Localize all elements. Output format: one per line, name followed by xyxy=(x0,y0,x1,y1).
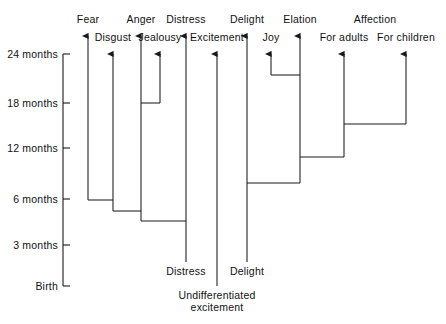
root-label-line-1: Undifferentiated xyxy=(178,290,255,302)
emotion-label-fear: Fear xyxy=(77,13,99,25)
emotion-differentiation-chart: 24 months 18 months 12 months 6 months 3… xyxy=(0,0,446,324)
emotion-label-affection-for-children: For children xyxy=(377,31,435,43)
y-tick-label-3-months: 3 months xyxy=(0,239,58,251)
emotion-label-delight-bottom: Delight xyxy=(230,265,264,277)
y-tick-label-birth: Birth xyxy=(0,280,58,292)
y-tick-label-12-months: 12 months xyxy=(0,142,58,154)
emotion-label-elation: Elation xyxy=(283,13,317,25)
y-tick-label-6-months: 6 months xyxy=(0,193,58,205)
emotion-label-disgust: Disgust xyxy=(95,31,131,43)
y-axis xyxy=(63,54,70,286)
emotion-label-affection-for-adults: For adults xyxy=(320,31,369,43)
emotion-label-jealousy: Jealousy xyxy=(138,31,181,43)
y-tick-label-24-months: 24 months xyxy=(0,48,58,60)
emotion-label-delight-top: Delight xyxy=(230,13,264,25)
emotion-label-affection: Affection xyxy=(354,13,396,25)
chart-line-graphics xyxy=(0,0,446,324)
root-label-undifferentiated-excitement: Undifferentiated excitement xyxy=(178,290,255,313)
emotion-label-excitement: Excitement xyxy=(190,31,244,43)
y-tick-label-18-months: 18 months xyxy=(0,97,58,109)
root-label-line-2: excitement xyxy=(178,302,255,314)
emotion-label-distress-bottom: Distress xyxy=(166,265,206,277)
emotion-label-distress-top: Distress xyxy=(166,13,206,25)
emotion-label-joy: Joy xyxy=(263,31,280,43)
emotion-label-anger: Anger xyxy=(126,13,155,25)
